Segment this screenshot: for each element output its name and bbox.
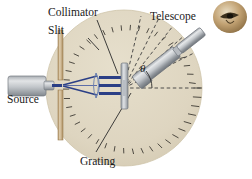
- label-grating: Grating: [80, 155, 115, 167]
- figure-canvas: Collimator Slit Telescope Source Grating…: [0, 0, 252, 179]
- label-collimator: Collimator: [48, 6, 98, 18]
- label-slit: Slit: [48, 24, 64, 36]
- slit-post-upper: [58, 30, 63, 80]
- collimated-ray-mid: [99, 84, 121, 87]
- source-emission: [52, 84, 62, 87]
- label-source: Source: [7, 93, 39, 105]
- grating-group: [121, 63, 128, 109]
- eye-group: [213, 1, 247, 33]
- label-telescope: Telescope: [150, 10, 196, 22]
- collimated-ray-lower: [99, 92, 121, 95]
- slit-post-lower: [58, 90, 63, 140]
- label-theta-angle: θ: [140, 62, 145, 74]
- eye-pupil: [227, 13, 233, 18]
- collimated-ray-upper: [99, 76, 121, 79]
- grating-aperture: [123, 80, 126, 96]
- apparatus-drawing: [0, 0, 252, 179]
